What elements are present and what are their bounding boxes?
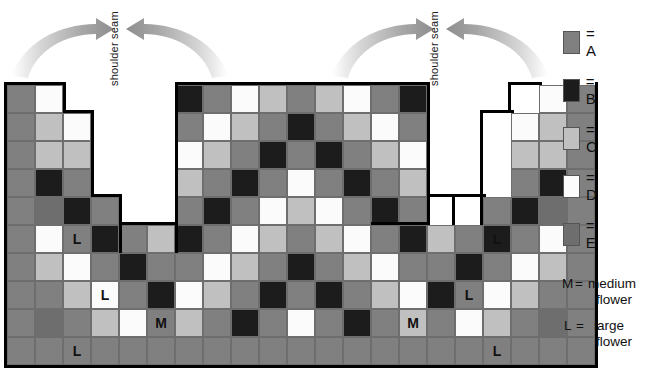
- chart-cell: [7, 309, 35, 337]
- chart-cell: [455, 225, 483, 253]
- outline-right-step-4h: [427, 194, 486, 197]
- outline-right-neck-h: [371, 222, 430, 225]
- chart-cell: [455, 253, 483, 281]
- chart-cell: [287, 113, 315, 141]
- chart-cell: [371, 337, 399, 365]
- chart-cell: [287, 337, 315, 365]
- chart-cell: [35, 169, 63, 197]
- chart-cell: [287, 225, 315, 253]
- chart-cell: [203, 113, 231, 141]
- note-m-eq: =: [575, 276, 583, 292]
- chart-cell: [259, 169, 287, 197]
- chart-cell: [343, 141, 371, 169]
- legend-label-e: = E: [586, 217, 602, 251]
- note-m-word2: flower: [596, 292, 632, 308]
- chart-cell: [7, 281, 35, 309]
- chart-cell: [7, 141, 35, 169]
- chart-cell: [511, 281, 539, 309]
- chart-cell: [175, 281, 203, 309]
- chart-cell: [7, 225, 35, 253]
- chart-cell: [203, 253, 231, 281]
- chart-cell: [287, 169, 315, 197]
- legend-swatch-d: [563, 175, 580, 198]
- chart-cell: [35, 197, 63, 225]
- chart-cell: [175, 253, 203, 281]
- chart-cell: [399, 281, 427, 309]
- chart-cell: [399, 85, 427, 113]
- chart-cell-marker-l: L: [455, 281, 483, 309]
- chart-cell: [371, 281, 399, 309]
- chart-cell: [231, 141, 259, 169]
- chart-cell: [35, 85, 63, 113]
- chart-cell: [371, 197, 399, 225]
- chart-cell: [343, 337, 371, 365]
- chart-cell: [35, 309, 63, 337]
- chart-cell: [511, 169, 539, 197]
- outline-bottom-edge: [4, 365, 598, 368]
- chart-cell: [231, 253, 259, 281]
- chart-cell: [427, 253, 455, 281]
- chart-cell: [399, 253, 427, 281]
- chart-cell: [175, 169, 203, 197]
- chart-cell: [315, 253, 343, 281]
- chart-cell: [427, 225, 455, 253]
- chart-cell: [63, 169, 91, 197]
- chart-cell: [483, 309, 511, 337]
- chart-cell-marker-m: M: [399, 309, 427, 337]
- chart-cell: [539, 309, 567, 337]
- chart-cell: [343, 225, 371, 253]
- chart-cell: [287, 253, 315, 281]
- chart-cell: [259, 337, 287, 365]
- chart-cell: [427, 337, 455, 365]
- chart-cell: [203, 85, 231, 113]
- chart-cell: [7, 253, 35, 281]
- outline-left-neck-h: [119, 222, 178, 225]
- chart-cell: [371, 113, 399, 141]
- chart-cell: [259, 197, 287, 225]
- note-l-key: L: [564, 318, 572, 334]
- legend-item-b: = B: [563, 78, 602, 102]
- chart-cell: [315, 309, 343, 337]
- chart-cell: [147, 281, 175, 309]
- chart-cell: [259, 253, 287, 281]
- chart-cell: [483, 253, 511, 281]
- outline-left-step-1h: [63, 110, 94, 113]
- chart-cell: [35, 253, 63, 281]
- chart-cell: [259, 281, 287, 309]
- chart-cell: [343, 113, 371, 141]
- chart-cell: [259, 113, 287, 141]
- chart-cell: [7, 85, 35, 113]
- chart-cell: [539, 337, 567, 365]
- chart-cell: [259, 141, 287, 169]
- legend-swatch-b: [563, 79, 580, 102]
- legend-swatch-e: [563, 223, 580, 246]
- chart-cell: [91, 225, 119, 253]
- chart-cell: [259, 225, 287, 253]
- legend-label-b: = B: [586, 73, 602, 107]
- note-m-word1: medium: [588, 276, 636, 292]
- chart-cell: [7, 337, 35, 365]
- chart-cell: [399, 337, 427, 365]
- chart-cell: [315, 113, 343, 141]
- chart-cell: [315, 281, 343, 309]
- chart-cell: [63, 141, 91, 169]
- chart-cell: [511, 253, 539, 281]
- chart-cell: [203, 337, 231, 365]
- chart-cell: [175, 337, 203, 365]
- chart-cell: [231, 85, 259, 113]
- chart-cell: [455, 309, 483, 337]
- chart-cell: [7, 169, 35, 197]
- legend-swatch-a: [563, 31, 580, 54]
- chart-cell: [399, 169, 427, 197]
- outline-left-step-1v: [63, 82, 66, 113]
- chart-cell: [287, 281, 315, 309]
- chart-cell: [63, 113, 91, 141]
- chart-cell: [203, 309, 231, 337]
- chart-cell: [35, 113, 63, 141]
- chart-cell: [147, 337, 175, 365]
- chart-cell: [287, 197, 315, 225]
- chart-cell: [63, 281, 91, 309]
- chart-cell: [511, 197, 539, 225]
- chart-cell: [511, 113, 539, 141]
- shoulder-seam-arrow-left: [10, 18, 230, 84]
